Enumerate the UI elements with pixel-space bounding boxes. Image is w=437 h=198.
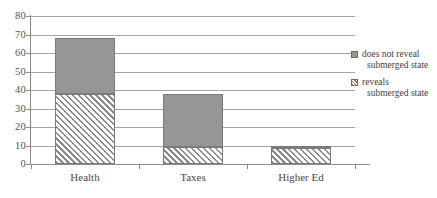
y-axis-tick-mark xyxy=(26,90,31,91)
y-axis-tick-mark xyxy=(26,146,31,147)
y-axis-tick-label: 20 xyxy=(15,122,26,133)
y-axis-tick-mark xyxy=(26,72,31,73)
bar-segment-does-not-reveal xyxy=(55,38,115,94)
legend-item-label-line1: does not reveal xyxy=(362,49,420,59)
y-axis-tick-mark xyxy=(26,16,31,17)
legend-item-label-line1: reveals xyxy=(362,77,389,87)
y-axis-tick-label: 30 xyxy=(15,103,26,114)
gridline xyxy=(31,35,355,36)
legend-swatch-solid-icon xyxy=(351,51,358,58)
x-axis-line xyxy=(30,164,370,165)
legend-swatch-hatched-icon xyxy=(351,79,358,86)
legend-item-label-line2: submerged state xyxy=(362,88,428,99)
y-axis-tick-labels: 80706050403020100 xyxy=(0,0,26,198)
x-axis-tick-mark xyxy=(247,165,248,169)
legend-item[interactable]: does not revealsubmerged state xyxy=(351,49,437,71)
y-axis-tick-mark xyxy=(26,109,31,110)
y-axis-tick-label: 80 xyxy=(15,11,26,22)
chart-legend: does not revealsubmerged state revealssu… xyxy=(351,49,437,105)
legend-item-label: does not revealsubmerged state xyxy=(362,49,428,71)
x-axis-tick-mark xyxy=(31,165,32,169)
bar-segment-reveals xyxy=(271,148,331,164)
x-axis-tick-mark xyxy=(139,165,140,169)
legend-item-label: revealssubmerged state xyxy=(362,77,428,99)
bar-segment-does-not-reveal xyxy=(163,94,223,148)
bar-segment-reveals xyxy=(163,147,223,164)
y-axis-tick-mark xyxy=(26,127,31,128)
legend-item[interactable]: revealssubmerged state xyxy=(351,77,437,99)
y-axis-tick-mark xyxy=(26,35,31,36)
bar-segment-reveals xyxy=(55,94,115,164)
legend-item-label-line2: submerged state xyxy=(362,60,428,71)
y-axis-tick-label: 50 xyxy=(15,66,26,77)
plot-area xyxy=(31,16,355,164)
y-axis-tick-label: 60 xyxy=(15,48,26,59)
y-axis-tick-label: 70 xyxy=(15,29,26,40)
x-axis-tick-mark xyxy=(355,165,356,169)
x-axis-tick-label: Health xyxy=(70,172,99,183)
gridline xyxy=(31,16,355,17)
stacked-bar-chart: 80706050403020100 does not revealsubmerg… xyxy=(0,0,437,198)
x-axis-tick-label: Higher Ed xyxy=(278,172,324,183)
x-axis-tick-label: Taxes xyxy=(180,172,206,183)
y-axis-tick-label: 10 xyxy=(15,140,26,151)
y-axis-tick-label: 40 xyxy=(15,85,26,96)
y-axis-tick-mark xyxy=(26,53,31,54)
